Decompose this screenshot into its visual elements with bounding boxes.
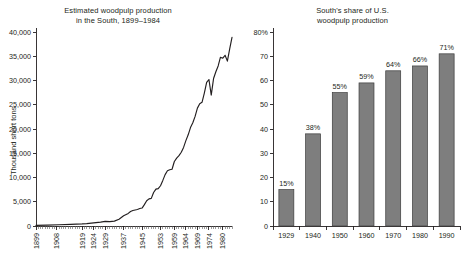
line-chart-x-tick-label: 1899	[32, 233, 41, 249]
line-chart-x-tick-label: 1953	[156, 233, 165, 249]
bar-chart-bar[interactable]	[306, 134, 321, 226]
line-chart-y-tick-label: 0	[27, 222, 31, 231]
bar-chart-bar[interactable]	[412, 66, 427, 226]
bar-chart-x-tick-label: 1980	[412, 231, 428, 240]
line-chart-y-tick-label: 20,000	[9, 125, 31, 134]
bar-chart-x-tick-label: 1970	[385, 231, 401, 240]
bar-chart-y-tick-label: 70	[260, 52, 268, 61]
bar-chart-y-tick-label: 40	[260, 125, 268, 134]
line-chart-x-tick-label: 1945	[138, 233, 147, 249]
line-chart-panel: Estimated woodpulp production in the Sou…	[0, 0, 236, 261]
line-chart-x-tick-label: 1980	[218, 233, 227, 249]
line-chart-x-tick-label: 1969	[193, 233, 202, 249]
bar-chart-bar[interactable]	[279, 190, 294, 226]
bar-chart-bar[interactable]	[439, 54, 454, 226]
bar-chart-y-tick-label: 50	[260, 100, 268, 109]
line-chart-y-tick-label: 40,000	[9, 28, 31, 37]
line-chart-y-tick-label: 30,000	[9, 76, 31, 85]
line-chart-y-tick-label: 25,000	[9, 100, 31, 109]
bar-chart-x-tick-label: 1950	[332, 231, 348, 240]
line-chart-x-tick-label: 1908	[52, 233, 61, 249]
line-chart-x-tick-label: 1959	[170, 233, 179, 249]
bar-chart-bar[interactable]	[332, 93, 347, 226]
bar-chart-y-tick-label: 20	[260, 173, 268, 182]
line-chart-x-tick-label: 1974	[205, 233, 214, 249]
line-chart-y-tick-label: 15,000	[9, 149, 31, 158]
bar-chart-value-label: 71%	[439, 43, 454, 52]
line-chart-y-tick-label: 35,000	[9, 52, 31, 61]
bar-chart-y-tick-label: 60	[260, 76, 268, 85]
bar-chart-x-tick-label: 1960	[359, 231, 375, 240]
bar-chart-x-tick-label: 1990	[439, 231, 455, 240]
line-chart-x-tick-label: 1929	[101, 233, 110, 249]
bar-chart-panel: South's share of U.S. woodpulp productio…	[236, 0, 469, 261]
line-chart-y-tick-label: 10,000	[9, 173, 31, 182]
line-chart-y-tick-label: 5,000	[13, 197, 31, 206]
line-chart-x-tick-label: 1964	[181, 233, 190, 249]
bar-chart-y-tick-label: 30	[260, 149, 268, 158]
line-chart-x-tick-label: 1924	[89, 233, 98, 249]
bar-chart-plot: 01020304050607080%15%192938%194055%19505…	[236, 0, 469, 261]
bar-chart-x-tick-label: 1929	[278, 231, 294, 240]
figure-two-charts: Estimated woodpulp production in the Sou…	[0, 0, 469, 261]
bar-chart-value-label: 59%	[359, 72, 374, 81]
bar-chart-value-label: 38%	[306, 123, 321, 132]
line-chart-x-tick-label: 1919	[78, 233, 87, 249]
line-chart-series	[36, 37, 232, 225]
bar-chart-x-tick-label: 1940	[305, 231, 321, 240]
bar-chart-bar[interactable]	[359, 83, 374, 226]
line-chart-plot: 05,00010,00015,00020,00025,00030,00035,0…	[0, 0, 236, 261]
bar-chart-value-label: 66%	[413, 55, 428, 64]
bar-chart-y-tick-label: 0	[264, 222, 268, 231]
bar-chart-value-label: 55%	[333, 82, 348, 91]
bar-chart-value-label: 64%	[386, 60, 401, 69]
bar-chart-y-tick-label: 80%	[254, 28, 269, 37]
line-chart-x-tick-label: 1937	[119, 233, 128, 249]
bar-chart-y-tick-label: 10	[260, 197, 268, 206]
bar-chart-bar[interactable]	[386, 71, 401, 226]
bar-chart-value-label: 15%	[279, 179, 294, 188]
